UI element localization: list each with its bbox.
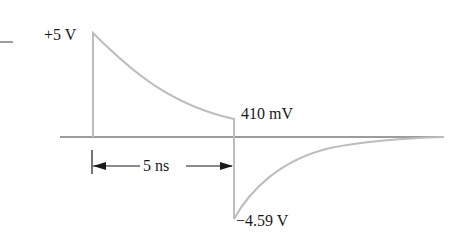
label-step-level: 410 mV xyxy=(241,106,293,122)
waveform-diagram: +5 V 410 mV 5 ns −4.59 V xyxy=(0,0,467,251)
left-arrowhead-icon xyxy=(93,162,106,170)
label-duration: 5 ns xyxy=(143,158,169,174)
label-peak-negative: −4.59 V xyxy=(236,213,288,229)
waveform-trace xyxy=(93,33,444,219)
label-peak-positive: +5 V xyxy=(44,27,76,43)
right-arrowhead-icon xyxy=(220,162,233,170)
